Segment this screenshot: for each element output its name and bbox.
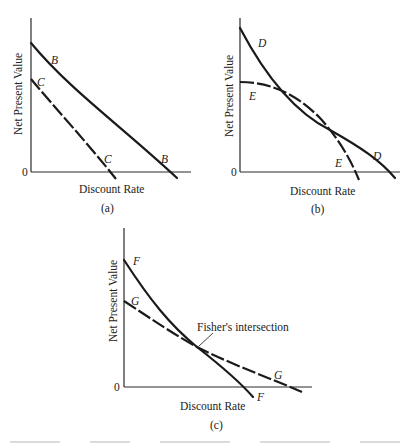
panel-caption: (b) [311,203,325,216]
curve-f-label-bottom: F [256,391,265,403]
curve-c-label-bottom: C [104,153,112,165]
panel-b: 0 Net Present Value Discount Rate (b) D … [223,18,400,216]
x-axis-label: Discount Rate [290,185,355,197]
curve-d-label-top: D [257,37,267,49]
x-axis-label: Discount Rate [79,183,144,195]
curve-b-label-bottom: B [161,153,168,165]
panel-caption: (a) [101,202,114,215]
curve-f-label-top: F [132,255,141,267]
curve-d-label-bottom: D [372,150,382,162]
curve-b-label-top: B [51,54,58,66]
curve-g-label-bottom: G [274,369,283,381]
panel-c: 0 Net Present Value Discount Rate (c) F … [107,228,312,432]
curve-e-label-top: E [248,90,256,102]
origin-label: 0 [231,166,237,178]
curve-c-label-top: C [37,76,45,88]
y-axis-label: Net Present Value [12,53,24,135]
fisher-intersection-label: Fisher's intersection [197,321,289,333]
origin-label: 0 [114,381,120,393]
panel-a: 0 Net Present Value Discount Rate (a) B … [12,18,191,215]
npv-profile-figure: 0 Net Present Value Discount Rate (a) B … [0,0,412,445]
y-axis-label: Net Present Value [223,55,235,137]
curve-d [240,28,395,178]
annotation-leader-line [199,333,213,346]
y-axis-label: Net Present Value [107,260,119,342]
x-axis-label: Discount Rate [180,400,245,412]
origin-label: 0 [22,166,28,178]
curve-g-label-top: G [131,295,140,307]
curve-e-label-bottom: E [334,157,342,169]
panel-caption: (c) [210,419,223,432]
